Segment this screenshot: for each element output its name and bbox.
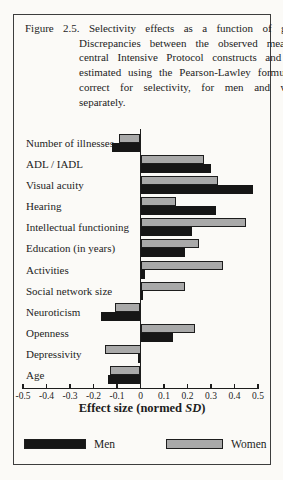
bar-women: [141, 239, 200, 248]
bar-women: [110, 366, 141, 375]
x-axis-title-italic: SD: [185, 401, 201, 415]
category-label: Neuroticism: [26, 303, 80, 321]
x-axis-title-prefix: Effect size (normed: [79, 401, 186, 415]
bar-men: [141, 227, 193, 236]
x-axis-tick: [257, 384, 258, 388]
x-axis-tick: [234, 384, 235, 388]
figure-box: Figure 2.5. Selectivity effects as a fun…: [13, 14, 271, 465]
legend-label-men: Men: [94, 435, 115, 453]
x-axis-tick: [22, 384, 23, 388]
legend-swatch-women: [166, 439, 223, 449]
bar-men: [141, 270, 146, 279]
bar-men: [108, 375, 141, 384]
bar-men: [141, 185, 254, 194]
bar-women: [141, 324, 195, 333]
bar-men: [112, 143, 140, 152]
category-label: Age: [26, 366, 44, 384]
legend-swatch-men: [24, 439, 86, 449]
legend-label-women: Women: [231, 435, 266, 453]
x-axis-tick: [46, 384, 47, 388]
bar-men: [141, 248, 186, 257]
category-label: Openness: [26, 324, 69, 342]
bar-men: [138, 354, 140, 363]
bar-men: [141, 206, 216, 215]
category-label: Activities: [26, 261, 69, 279]
x-axis-tick: [163, 384, 164, 388]
bar-men: [141, 164, 212, 173]
bar-women: [141, 176, 219, 185]
x-axis-tick: [93, 384, 94, 388]
x-axis-title: Effect size (normed SD): [14, 401, 270, 416]
category-label: Social network size: [26, 282, 112, 300]
plot-area: Number of illnessesADL / IADLVisual acui…: [14, 15, 270, 464]
bar-women: [141, 155, 204, 164]
bar-men: [141, 291, 143, 300]
category-label: Number of illnesses: [26, 134, 114, 152]
x-axis-tick: [210, 384, 211, 388]
bar-women: [119, 134, 140, 143]
x-axis-line: [22, 388, 258, 389]
x-axis-tick: [69, 384, 70, 388]
bar-men: [101, 312, 141, 321]
category-label: ADL / IADL: [26, 155, 83, 173]
category-label: Education (in years): [26, 239, 115, 257]
bar-women: [115, 303, 141, 312]
bar-women: [141, 261, 223, 270]
bar-women: [105, 345, 140, 354]
x-axis-title-suffix: ): [201, 401, 205, 415]
category-label: Visual acuity: [26, 176, 84, 194]
x-axis-tick: [116, 384, 117, 388]
x-axis-tick: [140, 384, 141, 388]
bar-women: [141, 282, 186, 291]
category-label: Depressivity: [26, 345, 82, 363]
category-label: Hearing: [26, 197, 61, 215]
x-axis-tick: [187, 384, 188, 388]
bar-women: [141, 197, 176, 206]
bar-women: [141, 218, 247, 227]
category-label: Intellectual functioning: [26, 218, 129, 236]
bar-men: [141, 333, 174, 342]
